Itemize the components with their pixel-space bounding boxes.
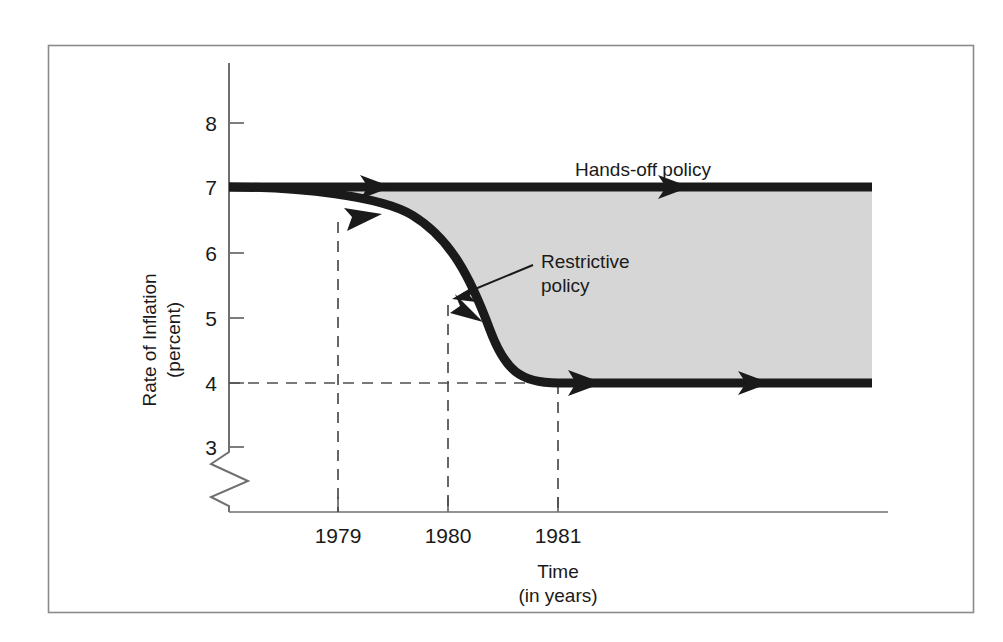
- x-axis-title-sub: (in years): [518, 585, 597, 606]
- hands-off-policy-label: Hands-off policy: [575, 159, 711, 180]
- y-tick-label-3: 3: [205, 436, 217, 459]
- restrictive-policy-label-line2: policy: [541, 275, 590, 296]
- x-axis-title: Time: [537, 561, 579, 582]
- y-tick-label-4: 4: [205, 372, 217, 395]
- x-tick-label-1981: 1981: [535, 524, 582, 547]
- x-tick-label-1979: 1979: [315, 524, 362, 547]
- y-tick-label-8: 8: [205, 112, 217, 135]
- y-axis-title-sub: (percent): [163, 302, 184, 378]
- x-tick-label-1980: 1980: [425, 524, 472, 547]
- restrictive-policy-label-line1: Restrictive: [541, 251, 630, 272]
- y-tick-label-6: 6: [205, 242, 217, 265]
- inflation-policy-chart: 8 7 6 5 4 3 1979 1980 1981: [0, 0, 1003, 642]
- y-tick-label-7: 7: [205, 176, 217, 199]
- y-tick-label-5: 5: [205, 307, 217, 330]
- figure-root: 8 7 6 5 4 3 1979 1980 1981: [0, 0, 1003, 642]
- y-axis-title: Rate of Inflation: [139, 273, 160, 406]
